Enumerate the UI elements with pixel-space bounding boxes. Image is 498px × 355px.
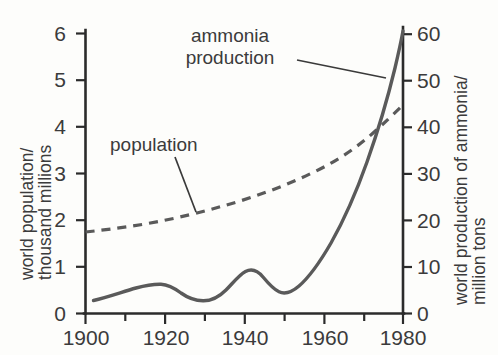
- left-axis-tick-label-5: 5: [34, 69, 66, 90]
- ammonia-annotation: ammonia production: [160, 25, 300, 70]
- x-axis-tick-label-1960: 1960: [281, 327, 369, 348]
- x-axis-tick-label-1920: 1920: [122, 327, 210, 348]
- right-axis-tick-label-0: 0: [417, 303, 429, 324]
- right-axis-tick-label-30: 30: [417, 163, 440, 184]
- ammonia-annotation-line-2: production: [160, 47, 300, 69]
- chart-figure: 6 5 4 3 2 1 0 60 50 40 30 20 10 0 1900 1…: [0, 0, 498, 355]
- population-annotation: population: [110, 134, 198, 156]
- population-annotation-leader: [175, 157, 196, 212]
- right-axis-tick-label-60: 60: [417, 23, 440, 44]
- right-axis-tick-label-50: 50: [417, 70, 440, 91]
- x-axis-tick-label-1900: 1900: [42, 327, 130, 348]
- right-axis-title-line-2: million tons: [470, 217, 490, 305]
- ammonia-annotation-line-1: ammonia: [160, 25, 300, 47]
- right-axis-tick-label-10: 10: [417, 256, 440, 277]
- x-axis-tick-label-1940: 1940: [201, 327, 289, 348]
- left-axis-title-line-2: thousand millions: [36, 145, 56, 280]
- left-axis-tick-label-0: 0: [34, 303, 66, 324]
- right-axis-tick-label-40: 40: [417, 116, 440, 137]
- series-population-curve: [86, 105, 404, 232]
- x-axis-tick-label-1980: 1980: [359, 327, 447, 348]
- ammonia-annotation-leader: [297, 60, 386, 78]
- left-axis-tick-label-6: 6: [34, 23, 66, 44]
- left-axis-tick-label-4: 4: [34, 116, 66, 137]
- right-axis-tick-label-20: 20: [417, 210, 440, 231]
